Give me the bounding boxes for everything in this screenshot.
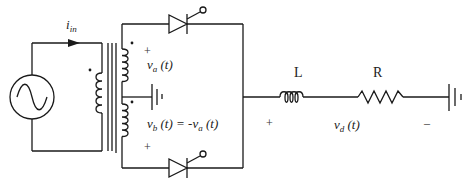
va-plus-sign: + xyxy=(144,45,151,57)
resistor xyxy=(358,91,403,103)
load-branch xyxy=(243,84,461,111)
polarity-dot-secondary-bottom xyxy=(131,101,134,104)
gate-terminal-icon xyxy=(200,7,206,13)
vd-label: vd (t) xyxy=(334,118,360,134)
sine-wave-icon xyxy=(17,84,47,110)
primary-coil xyxy=(89,69,102,113)
va-label: va (t) xyxy=(147,58,173,74)
primary-wiring xyxy=(32,39,102,151)
thyristor-bottom xyxy=(122,151,243,178)
secondary-coil xyxy=(122,24,162,168)
vd-minus-sign: – xyxy=(424,117,430,129)
circuit-diagram: iin + va (t) vb (t) = -va (t) + L R + vd… xyxy=(0,0,471,188)
inductor-label: L xyxy=(294,66,303,80)
resistor-label: R xyxy=(373,66,382,80)
current-arrow-icon xyxy=(68,39,80,47)
gate-terminal-icon xyxy=(200,151,206,157)
vb-label: vb (t) = -va (t) xyxy=(147,117,218,133)
polarity-dot-primary xyxy=(89,69,92,72)
input-current-label: iin xyxy=(66,18,77,34)
ac-source xyxy=(10,43,54,151)
inductor xyxy=(280,92,303,103)
polarity-dot-secondary-top xyxy=(131,42,134,45)
transformer-core xyxy=(108,43,116,153)
vd-plus-sign: + xyxy=(266,117,273,129)
thyristor-top xyxy=(122,7,243,34)
vb-plus-sign: + xyxy=(144,141,151,153)
